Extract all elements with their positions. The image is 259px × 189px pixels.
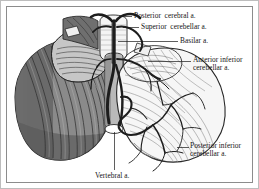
- cerebellum-illustration: [1, 1, 259, 189]
- label-vertebral-artery: Vertebral a.: [95, 172, 129, 180]
- label-posterior-cerebral-artery: Posterior cerebral a.: [134, 12, 196, 20]
- label-anterior-inferior-cerebellar-artery: Anterior inferior cerebellar a.: [193, 56, 242, 72]
- label-basilar-artery: Basilar a.: [180, 37, 208, 45]
- label-superior-cerebellar-artery: Superior cerebellar a.: [141, 23, 207, 31]
- anatomical-figure-frame: Posterior cerebral a. Superior cerebella…: [0, 0, 259, 189]
- basilar-artery: [112, 21, 114, 63]
- label-posterior-inferior-cerebellar-artery: Posterior inferior cerebellar a.: [190, 142, 241, 158]
